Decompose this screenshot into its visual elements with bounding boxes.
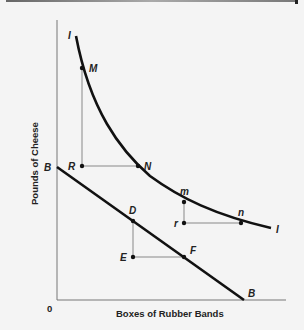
label-F: F <box>190 245 197 256</box>
point-markers <box>80 66 243 259</box>
label-I-start: I <box>68 30 71 41</box>
y-axis-label: Pounds of Cheese <box>29 122 40 205</box>
label-N: N <box>144 161 152 172</box>
triangle-MRN <box>82 68 138 166</box>
label-D: D <box>129 205 136 216</box>
label-B-end: B <box>248 288 255 299</box>
point-E <box>131 255 135 259</box>
indifference-budget-diagram: I M R N m r n I B D E F B 0 Boxes of Rub… <box>0 0 304 330</box>
budget-line <box>57 167 244 300</box>
label-r: r <box>174 218 179 229</box>
label-m: m <box>180 186 189 197</box>
label-R: R <box>68 161 76 172</box>
indifference-curve <box>76 36 271 228</box>
label-B-start: B <box>44 162 51 173</box>
point-D <box>131 219 135 223</box>
point-m <box>182 200 186 204</box>
label-n: n <box>238 207 244 218</box>
point-M <box>80 66 84 70</box>
triangle-mrn <box>184 202 241 223</box>
point-N <box>136 164 140 168</box>
label-I-end: I <box>276 224 279 235</box>
origin-label: 0 <box>47 303 52 314</box>
point-F <box>182 255 186 259</box>
point-R <box>80 164 84 168</box>
label-M: M <box>89 63 98 74</box>
guide-lines <box>82 68 241 257</box>
point-n <box>239 221 243 225</box>
point-r <box>182 221 186 225</box>
label-E: E <box>120 252 127 263</box>
x-axis-label: Boxes of Rubber Bands <box>116 308 224 319</box>
